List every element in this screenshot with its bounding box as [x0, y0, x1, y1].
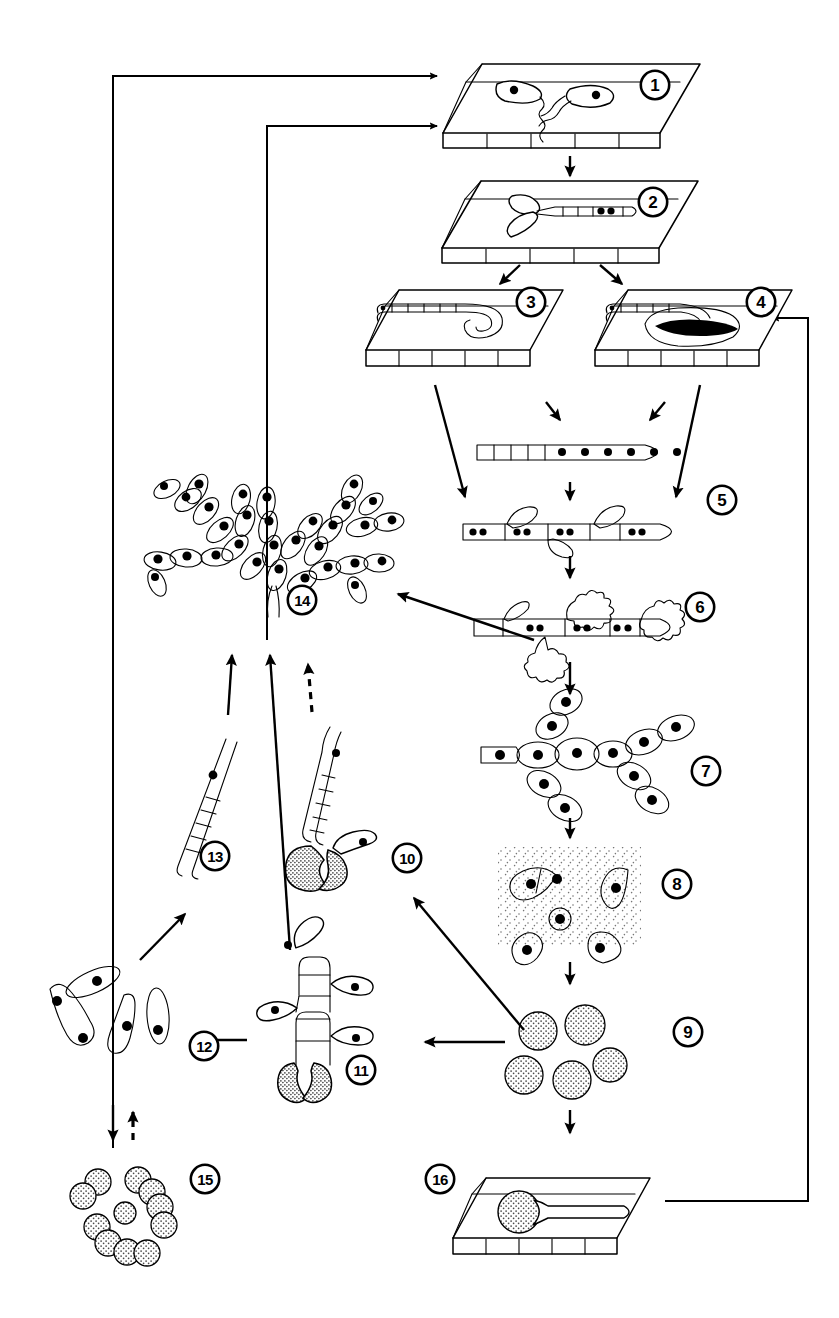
stage-15-label: 15 — [197, 1171, 213, 1188]
stage-10-label: 10 — [399, 850, 415, 867]
stage-5-label: 5 — [717, 491, 726, 510]
stage-10-number: 10 — [393, 844, 421, 872]
stage-3-label: 3 — [526, 293, 535, 312]
life-cycle-diagram: 1 2 — [0, 0, 839, 1318]
stage-6-number: 6 — [686, 593, 714, 621]
stage-15-number: 15 — [191, 1165, 219, 1193]
diagram-canvas: 1 2 — [0, 0, 839, 1318]
stage-12-label: 12 — [196, 1038, 212, 1055]
arrow-13-to-14 — [228, 655, 232, 715]
feedback-arrow-15-to-1 — [113, 76, 437, 1148]
arrow-6-to-14 — [398, 594, 534, 640]
stage-12-number: 12 — [190, 1032, 218, 1060]
arrow-2-to-3 — [500, 265, 520, 284]
stage-8-label: 8 — [672, 875, 681, 894]
stage-2-number: 2 — [639, 188, 667, 216]
stage-13-label: 13 — [207, 848, 223, 865]
arrow-3-to-5 — [435, 385, 465, 497]
stage-5-illustration-upper — [477, 445, 681, 460]
stage-1-label: 1 — [650, 76, 659, 95]
stage-16-number: 16 — [426, 1165, 454, 1193]
stage-8-illustration — [498, 847, 641, 965]
stage-9-label: 9 — [683, 1023, 692, 1042]
stage-14-label: 14 — [294, 592, 311, 609]
stage-6-illustration — [474, 590, 685, 682]
arrow-3-into-hypha-upper — [650, 402, 665, 420]
stage-14-number: 14 — [288, 586, 316, 614]
stage-13-number: 13 — [201, 842, 229, 870]
arrow-4-into-hypha-upper — [546, 402, 560, 420]
stage-10-illustration — [286, 727, 377, 891]
arrow-2-to-4 — [600, 265, 622, 284]
arrow-11-to-14 — [270, 655, 290, 950]
stage-14-illustration — [143, 471, 405, 617]
stage-16-label: 16 — [432, 1171, 448, 1188]
stage-7-number: 7 — [692, 757, 720, 785]
arrow-10-to-14-dashed — [308, 664, 312, 712]
stage-7-illustration — [481, 683, 698, 827]
stage-15-illustration — [70, 1167, 177, 1266]
stage-12-illustration — [50, 960, 171, 1053]
stage-16-illustration — [453, 1178, 650, 1254]
arrow-4-to-5 — [676, 385, 700, 497]
stage-9-illustration — [505, 1005, 627, 1099]
stage-2-label: 2 — [648, 193, 657, 212]
stage-6-label: 6 — [695, 598, 704, 617]
stage-3-number: 3 — [517, 288, 545, 316]
stage-4-label: 4 — [756, 293, 766, 312]
stage-9-number: 9 — [674, 1018, 702, 1046]
stage-8-number: 8 — [663, 870, 691, 898]
stage-4-number: 4 — [747, 288, 775, 316]
stage-11-number: 11 — [347, 1056, 375, 1084]
stage-7-label: 7 — [701, 762, 710, 781]
arrow-12-to-13 — [140, 914, 185, 960]
stage-11-label: 11 — [354, 1062, 369, 1079]
stage-5-number: 5 — [708, 486, 736, 514]
stage-1-number: 1 — [641, 71, 669, 99]
stage-5-illustration-lower — [463, 506, 672, 558]
